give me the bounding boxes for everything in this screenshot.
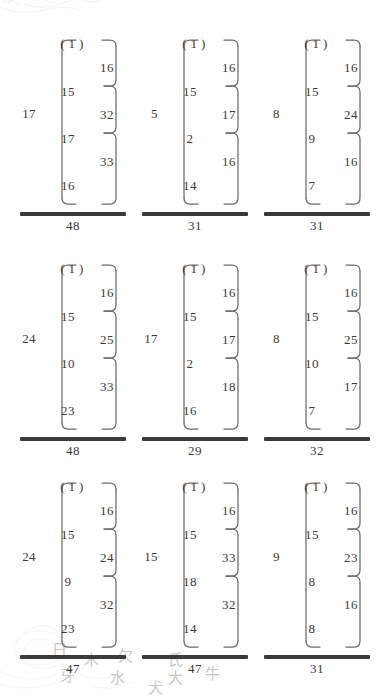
node-value-root: ( 1 ): [52, 261, 92, 277]
root-value: 17: [12, 106, 36, 122]
node-value-1: 15: [170, 309, 210, 325]
edge-value-1: 16: [222, 60, 250, 76]
bracket-tree-diagram-r3c2: 15 ( 1 ) 15 18 14 16 33 32: [130, 475, 252, 699]
edge-value-2: 25: [344, 332, 372, 348]
node-value-root: ( 1 ): [296, 479, 336, 495]
node-value-2: 2: [170, 131, 210, 147]
root-value: 17: [134, 331, 158, 347]
edge-value-2: 25: [100, 332, 128, 348]
node-value-3: 16: [48, 178, 88, 194]
node-value-1: 15: [170, 84, 210, 100]
bracket-tree-diagram-r1c1: 17 ( 1 ) 15 17 16 16 32 33: [8, 32, 130, 257]
node-value-2: 18: [170, 574, 210, 590]
total-value: 31: [264, 218, 370, 234]
node-value-3: 23: [48, 403, 88, 419]
total-value: 48: [20, 218, 126, 234]
root-value: 8: [256, 106, 280, 122]
bracket-tree-diagram-r2c1: 24 ( 1 ) 15 10 23 16 25 33: [8, 257, 130, 482]
diagram-row: 17 ( 1 ) 15 17 16 16 32 33: [0, 32, 388, 257]
group0-top-corner: [102, 265, 116, 271]
bracket-tree-diagram-r1c3: 8 ( 1 ) 15 9 7 16 24 16: [252, 32, 374, 257]
root-value: 8: [256, 331, 280, 347]
node-value-1: 15: [292, 84, 332, 100]
total-rule: [20, 212, 126, 216]
edge-value-1: 16: [100, 60, 128, 76]
root-value: 15: [134, 549, 158, 565]
outer-bracket-bottom-corner: [62, 198, 76, 204]
edge-value-2: 33: [222, 550, 250, 566]
edge-value-2: 17: [222, 107, 250, 123]
node-value-2: 10: [48, 356, 88, 372]
node-value-2: 17: [48, 131, 88, 147]
group0-top-corner: [346, 265, 360, 271]
edge-value-2: 17: [222, 332, 250, 348]
diagram-row: 24 ( 1 ) 15 10 23 16 25 33: [0, 257, 388, 482]
node-value-2: 2: [170, 356, 210, 372]
edge-value-1: 16: [344, 503, 372, 519]
node-value-root: ( 1 ): [174, 36, 214, 52]
edge-value-1: 16: [100, 285, 128, 301]
total-rule: [142, 212, 248, 216]
total-rule: [20, 655, 126, 659]
outer-bracket-bottom-corner: [184, 198, 198, 204]
root-value: 5: [134, 106, 158, 122]
total-value: 48: [20, 443, 126, 459]
total-value: 47: [142, 661, 248, 677]
outer-bracket-bottom-corner: [306, 198, 320, 204]
edge-value-1: 16: [344, 285, 372, 301]
node-value-3: 14: [170, 178, 210, 194]
total-rule: [264, 655, 370, 659]
node-value-root: ( 1 ): [296, 261, 336, 277]
bracket-tree-diagram-r1c2: 5 ( 1 ) 15 2 14 16 17 16: [130, 32, 252, 257]
edge-value-3: 17: [344, 379, 372, 395]
edge-value-3: 16: [222, 154, 250, 170]
node-value-1: 15: [48, 84, 88, 100]
node-value-3: 7: [292, 178, 332, 194]
node-value-root: ( 1 ): [174, 261, 214, 277]
edge-value-3: 32: [222, 597, 250, 613]
total-value: 31: [264, 661, 370, 677]
outer-bracket-bottom-corner: [62, 641, 76, 647]
group0-top-corner: [102, 40, 116, 46]
node-value-root: ( 1 ): [296, 36, 336, 52]
total-rule: [142, 655, 248, 659]
edge-value-1: 16: [344, 60, 372, 76]
group0-top-corner: [224, 40, 238, 46]
node-value-3: 8: [292, 621, 332, 637]
total-rule: [20, 437, 126, 441]
edge-value-2: 24: [100, 550, 128, 566]
group0-top-corner: [102, 483, 116, 489]
node-value-2: 9: [48, 574, 88, 590]
root-value: 9: [256, 549, 280, 565]
node-value-1: 15: [48, 527, 88, 543]
edge-value-3: 16: [344, 597, 372, 613]
edge-value-3: 18: [222, 379, 250, 395]
node-value-3: 7: [292, 403, 332, 419]
bracket-tree-diagram-r2c2: 17 ( 1 ) 15 2 16 16 17 18: [130, 257, 252, 482]
bracket-tree-diagram-r2c3: 8 ( 1 ) 15 10 7 16 25 17: [252, 257, 374, 482]
node-value-3: 23: [48, 621, 88, 637]
edge-value-2: 24: [344, 107, 372, 123]
edge-value-3: 33: [100, 379, 128, 395]
total-rule: [264, 437, 370, 441]
edge-value-3: 32: [100, 597, 128, 613]
edge-value-3: 33: [100, 154, 128, 170]
total-rule: [142, 437, 248, 441]
group0-top-corner: [346, 483, 360, 489]
root-value: 24: [12, 331, 36, 347]
edge-value-2: 23: [344, 550, 372, 566]
total-value: 47: [20, 661, 126, 677]
edge-value-2: 32: [100, 107, 128, 123]
edge-value-3: 16: [344, 154, 372, 170]
group0-top-corner: [224, 483, 238, 489]
total-value: 32: [264, 443, 370, 459]
group0-top-corner: [346, 40, 360, 46]
outer-bracket-bottom-corner: [184, 641, 198, 647]
diagram-row: 24 ( 1 ) 15 9 23 16 24 32: [0, 475, 388, 699]
edge-value-1: 16: [222, 503, 250, 519]
node-value-2: 10: [292, 356, 332, 372]
total-value: 31: [142, 218, 248, 234]
outer-bracket-bottom-corner: [306, 423, 320, 429]
total-rule: [264, 212, 370, 216]
